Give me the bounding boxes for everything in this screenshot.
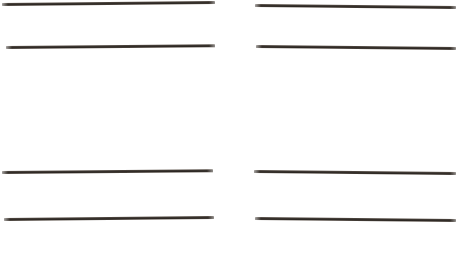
right-rule-1 xyxy=(255,4,456,9)
left-rule-1 xyxy=(2,1,215,6)
left-rule-2 xyxy=(6,44,215,49)
right-rule-3 xyxy=(254,170,456,175)
scanned-page xyxy=(0,0,463,271)
left-rule-3 xyxy=(2,169,213,174)
right-rule-4 xyxy=(255,217,456,222)
left-rule-4 xyxy=(4,216,214,221)
right-rule-2 xyxy=(256,45,456,50)
